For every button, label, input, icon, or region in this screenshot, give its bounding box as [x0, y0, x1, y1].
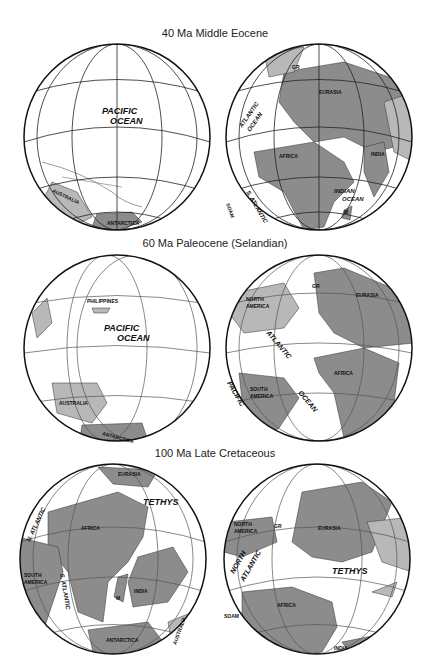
label-australia: AUSTRALIA	[59, 400, 88, 406]
label-philippines: PHILIPPINES	[87, 298, 119, 304]
label-indian: INDIAN	[334, 188, 355, 194]
label-tethys: TETHYS	[332, 566, 368, 576]
label-tethys: TETHYS	[143, 497, 179, 507]
label-eurasia: EURASIA	[319, 89, 342, 95]
label-soam: SOAM	[225, 202, 236, 218]
globe-40ma-atlantic: ATLANTIC OCEAN S. ATLANTIC INDIAN OCEAN …	[224, 42, 414, 232]
panel-title-100ma: 100 Ma Late Cretaceous	[0, 447, 430, 459]
label-eurasia: EURASIA	[318, 525, 341, 531]
label-pacific: PACIFIC	[102, 106, 138, 116]
globe-40ma-pacific: PACIFIC OCEAN AUSTRALIA ANTARCTICA	[22, 42, 212, 232]
label-america: AMERICA	[246, 303, 270, 309]
label-africa: AFRICA	[279, 153, 298, 159]
label-madagascar: M	[344, 209, 348, 215]
label-ocean: OCEAN	[110, 116, 143, 126]
label-india: INDIA	[371, 151, 385, 157]
label-south: SOUTH	[250, 386, 268, 392]
panel-title-40ma: 40 Ma Middle Eocene	[0, 27, 430, 39]
label-ocean-2: OCEAN	[342, 196, 364, 202]
label-africa: AFRICA	[277, 602, 296, 608]
label-antarctica: ANTARCTICA	[107, 220, 140, 226]
label-america: AMERICA	[234, 528, 258, 534]
globe-60ma-atlantic: NORTH AMERICA GR EURASIA AFRICA SOUTH AM…	[224, 253, 414, 443]
label-america-2: AMERICA	[250, 393, 274, 399]
label-greenland: GR	[274, 523, 282, 529]
globe-100ma-eurasia: NORTH AMERICA GR EURASIA AFRICA SOAM IND…	[222, 462, 412, 657]
label-north: NORTH	[246, 296, 264, 302]
label-africa: AFRICA	[334, 370, 353, 376]
label-eurasia: EURASIA	[356, 292, 379, 298]
globe-60ma-pacific: PHILIPPINES PACIFIC OCEAN AUSTRALIA ANTA…	[22, 253, 212, 443]
label-north: NORTH	[234, 521, 252, 527]
label-africa: AFRICA	[81, 525, 100, 531]
label-soam: SOAM	[224, 613, 239, 619]
label-south: SOUTH	[24, 572, 42, 578]
label-greenland: GR	[292, 64, 300, 70]
label-madagascar: M	[116, 595, 120, 601]
label-ocean: OCEAN	[117, 333, 150, 343]
label-greenland: GR	[312, 283, 320, 289]
label-india: INDIA	[334, 645, 348, 651]
label-america: AMERICA	[24, 579, 48, 585]
label-eurasia: EURASIA	[118, 471, 141, 477]
label-pacific: PACIFIC	[104, 323, 140, 333]
globe-100ma-africa: EURASIA TETHYS N. ATLANTIC S. ATLANTIC A…	[18, 462, 208, 657]
label-antarctica: ANTARCTICA	[106, 637, 139, 643]
panel-title-60ma: 60 Ma Paleocene (Selandian)	[0, 237, 430, 249]
label-india: INDIA	[134, 588, 148, 594]
